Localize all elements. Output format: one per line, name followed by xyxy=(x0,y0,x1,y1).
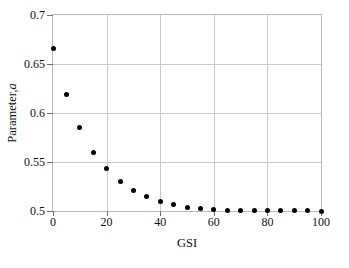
data-point xyxy=(158,199,163,204)
data-point xyxy=(319,209,324,214)
y-tick-label: 0.6 xyxy=(30,107,45,119)
x-tick-label: 100 xyxy=(312,216,330,228)
gridline-horizontal xyxy=(53,113,321,114)
gridline-horizontal xyxy=(53,64,321,65)
data-point xyxy=(278,208,283,213)
gridline-vertical xyxy=(107,15,108,211)
y-tick-label: 0.55 xyxy=(24,156,45,168)
data-point xyxy=(171,202,176,207)
y-axis-title: Parameter,a xyxy=(5,83,20,143)
y-tick xyxy=(47,15,53,16)
y-axis-title-text: Parameter, xyxy=(5,89,19,142)
y-tick-label: 0.7 xyxy=(30,9,45,21)
x-axis-title: GSI xyxy=(52,236,322,251)
x-tick-label: 60 xyxy=(208,216,220,228)
y-tick xyxy=(47,113,53,114)
x-tick-label: 20 xyxy=(101,216,113,228)
y-tick xyxy=(47,64,53,65)
data-point xyxy=(252,208,257,213)
gridline-vertical xyxy=(214,15,215,211)
gridline-vertical xyxy=(267,15,268,211)
data-point xyxy=(118,179,123,184)
x-tick-label: 0 xyxy=(50,216,56,228)
gridline-horizontal xyxy=(53,162,321,163)
data-point xyxy=(131,188,136,193)
data-point xyxy=(292,208,297,213)
y-tick-label: 0.65 xyxy=(24,58,45,70)
data-point xyxy=(225,208,230,213)
data-point xyxy=(91,150,96,155)
data-point xyxy=(77,125,82,130)
data-point xyxy=(185,205,190,210)
y-axis-title-symbol: a xyxy=(5,83,19,89)
data-point xyxy=(305,208,310,213)
data-point xyxy=(211,207,216,212)
data-point xyxy=(51,46,56,51)
y-tick-label: 0.5 xyxy=(30,205,45,217)
data-point xyxy=(144,194,149,199)
gridline-vertical xyxy=(160,15,161,211)
chart-figure: 0.50.550.60.650.7 020406080100 Parameter… xyxy=(0,0,349,268)
data-point xyxy=(265,208,270,213)
data-point xyxy=(238,208,243,213)
y-tick xyxy=(47,162,53,163)
plot-area: 0.50.550.60.650.7 020406080100 xyxy=(52,14,322,212)
data-point xyxy=(198,206,203,211)
data-point xyxy=(104,166,109,171)
x-tick-label: 80 xyxy=(261,216,273,228)
data-point xyxy=(64,92,69,97)
x-tick-label: 40 xyxy=(154,216,166,228)
